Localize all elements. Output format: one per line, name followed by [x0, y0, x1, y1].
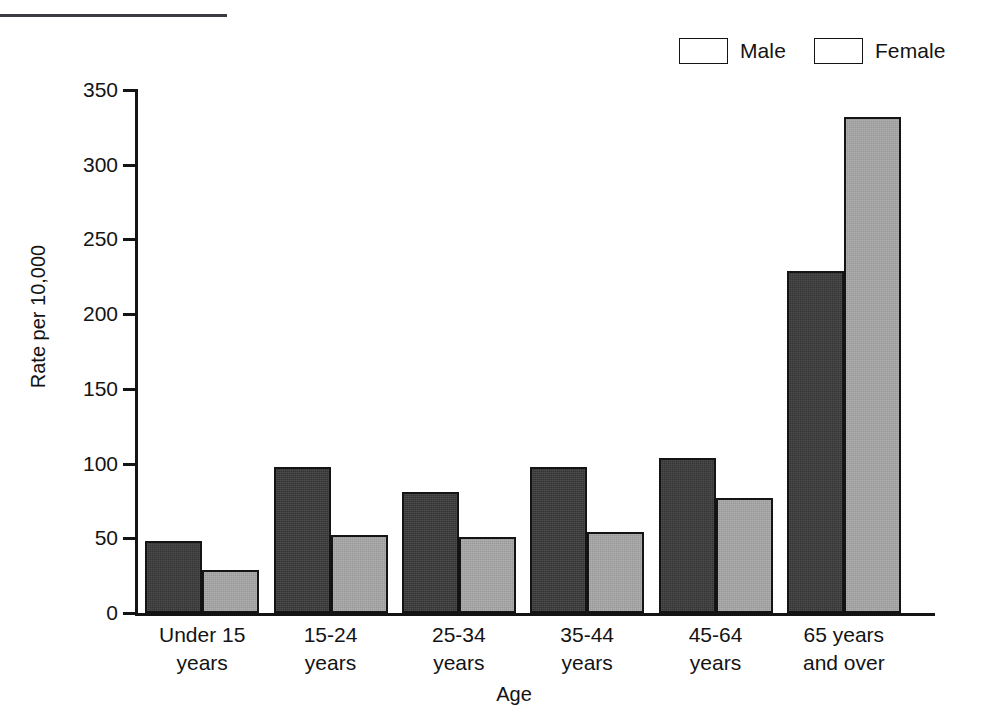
x-axis-category-label-4: 45-64 years — [651, 621, 779, 676]
x-axis-category-label-0: Under 15 years — [138, 621, 266, 676]
y-axis-tick-100 — [123, 463, 138, 466]
y-axis-tick-label-0: 0 — [66, 602, 118, 623]
y-axis-tick-150 — [123, 388, 138, 391]
y-axis-tick-label-300: 300 — [66, 154, 118, 175]
bar-chart-plot: 050100150200250300350 Under 15 years15-2… — [0, 0, 987, 726]
bar-male-group-4 — [659, 458, 716, 613]
y-axis-tick-labels: 050100150200250300350 — [60, 0, 118, 726]
x-axis-title: Age — [0, 683, 987, 706]
y-axis-tick-200 — [123, 313, 138, 316]
y-axis-tick-label-150: 150 — [66, 378, 118, 399]
y-axis-tick-label-50: 50 — [66, 527, 118, 548]
y-axis-tick-label-100: 100 — [66, 453, 118, 474]
x-axis-title-text: Age — [496, 683, 532, 706]
y-axis-tick-350 — [123, 89, 138, 92]
bar-male-group-3 — [530, 467, 587, 613]
bar-female-group-2 — [459, 537, 516, 613]
x-axis-category-label-5: 65 years and over — [780, 621, 908, 676]
bar-female-group-1 — [331, 535, 388, 613]
y-axis-tick-label-200: 200 — [66, 303, 118, 324]
y-axis-title: Rate per 10,000 — [27, 217, 50, 417]
bar-female-group-5 — [844, 117, 901, 613]
bar-male-group-5 — [787, 271, 844, 613]
x-axis-category-label-2: 25-34 years — [395, 621, 523, 676]
bar-female-group-4 — [716, 498, 773, 613]
y-axis-tick-50 — [123, 537, 138, 540]
bar-female-group-3 — [587, 532, 644, 613]
y-axis-tick-0 — [123, 612, 138, 615]
y-axis-tick-250 — [123, 238, 138, 241]
y-axis-tick-300 — [123, 164, 138, 167]
y-axis-tick-label-250: 250 — [66, 228, 118, 249]
x-axis-category-label-3: 35-44 years — [523, 621, 651, 676]
bar-male-group-0 — [145, 541, 202, 613]
y-axis-tick-label-350: 350 — [66, 79, 118, 100]
bar-male-group-2 — [402, 492, 459, 613]
x-axis-line — [135, 613, 935, 616]
x-axis-category-label-1: 15-24 years — [266, 621, 394, 676]
bar-female-group-0 — [202, 570, 259, 613]
bar-male-group-1 — [274, 467, 331, 613]
